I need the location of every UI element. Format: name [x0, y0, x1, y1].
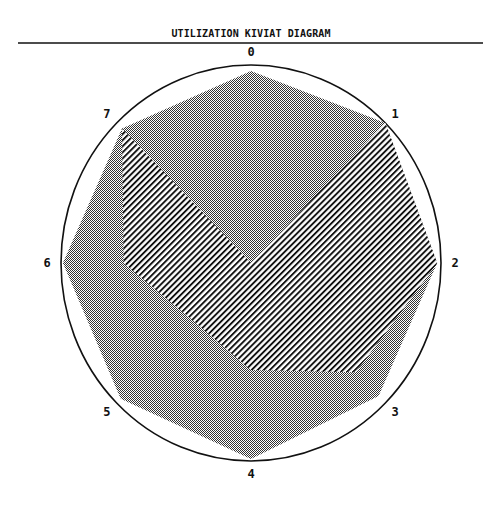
axis-label-5: 5: [103, 405, 110, 419]
axis-label-3: 3: [392, 405, 399, 419]
chart-title: UTILIZATION KIVIAT DIAGRAM: [171, 28, 330, 39]
axis-label-1: 1: [392, 107, 399, 121]
axis-label-0: 0: [247, 45, 254, 59]
axis-label-7: 7: [103, 107, 110, 121]
axis-label-6: 6: [43, 256, 50, 270]
axis-label-2: 2: [451, 256, 458, 270]
axis-label-4: 4: [247, 467, 254, 481]
kiviat-chart: UTILIZATION KIVIAT DIAGRAM 01234567: [0, 0, 497, 505]
